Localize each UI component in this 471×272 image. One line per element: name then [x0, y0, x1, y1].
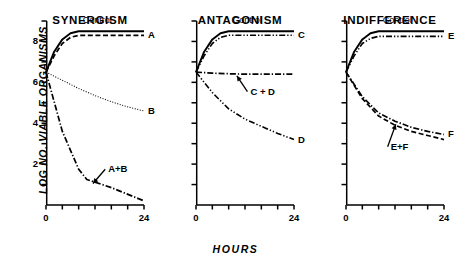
y-tick-label: 8	[24, 35, 38, 46]
x-tick-label: 0	[37, 212, 55, 223]
series-label-control: Control	[83, 15, 112, 25]
series-label-control: Control	[233, 15, 262, 25]
curve-b	[46, 72, 144, 111]
curve-control	[346, 31, 444, 72]
series-label-e: E	[448, 30, 454, 41]
x-axis-title: HOURS	[0, 243, 471, 255]
y-tick-label: 2	[24, 158, 38, 169]
y-tick-label: 6	[24, 76, 38, 87]
curve-d	[196, 72, 294, 139]
curve-c-d	[196, 72, 294, 74]
plot-area-antagonism	[196, 21, 324, 207]
series-label-c-d: C + D	[250, 86, 275, 97]
x-tick-label: 24	[435, 212, 453, 223]
y-tick-label: 4	[24, 117, 38, 128]
x-tick-label: 0	[187, 212, 205, 223]
series-label-d: D	[298, 134, 305, 145]
series-label-a-b: A+B	[108, 163, 127, 174]
plot-area-indifference	[346, 21, 471, 207]
figure-root: LOG NO. VIABLE ORGANISMS SYNERGISM246802…	[0, 0, 471, 272]
series-label-b: B	[148, 105, 155, 116]
series-label-control: Control	[383, 15, 412, 25]
series-label-f: F	[448, 128, 454, 139]
panel-synergism: SYNERGISM2468024ControlABA+B	[6, 0, 168, 272]
x-tick-label: 0	[337, 212, 355, 223]
panel-antagonism: ANTAGONISM024ControlCDC + D	[156, 0, 318, 272]
x-tick-label: 24	[135, 212, 153, 223]
curve-control	[46, 31, 144, 72]
curve-control	[196, 31, 294, 72]
x-tick-label: 24	[285, 212, 303, 223]
series-label-a: A	[148, 29, 155, 40]
series-label-e-f: E+F	[391, 141, 409, 152]
panel-indifference: INDIFFERENCE024ControlEFE+F	[306, 0, 468, 272]
series-label-c: C	[298, 29, 305, 40]
